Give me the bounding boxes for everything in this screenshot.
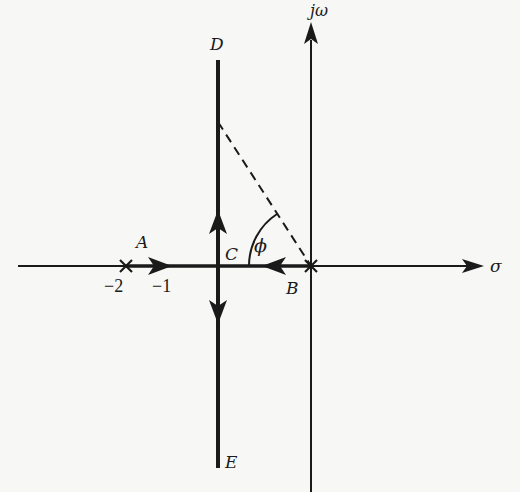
point-e-label: E [224,452,238,472]
root-locus-diagram: σ jω ϕ A B C D E −2 −1 [0,0,520,492]
tick-minus-one: −1 [152,276,171,296]
tick-minus-two: −2 [104,276,123,296]
sigma-label: σ [490,256,502,276]
jw-label: jω [307,1,328,20]
point-b-label: B [285,278,299,298]
point-c-label: C [225,244,238,264]
point-d-label: D [209,34,224,54]
phi-label: ϕ [254,234,267,256]
point-a-label: A [134,232,148,252]
imaginary-axis [304,22,318,492]
